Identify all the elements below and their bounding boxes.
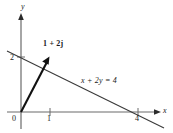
x-axis-label: x (163, 107, 167, 115)
diagram-canvas (0, 0, 173, 133)
y-axis-arrowhead-icon (18, 13, 24, 20)
vector-annotation-label: 1 + 2j (43, 40, 63, 48)
origin-label: 0 (12, 115, 16, 123)
x-tick-label-1: 1 (47, 115, 51, 123)
x-axis-arrowhead-icon (154, 109, 161, 115)
x-tick-label-4: 4 (135, 115, 139, 123)
line-equation-label: x + 2y = 4 (81, 77, 117, 85)
argand-diagram-figure: y x 0 1 4 2 1 + 2j x + 2y = 4 (0, 0, 173, 133)
y-tick-label-2: 2 (10, 54, 14, 62)
y-axis-label: y (21, 3, 25, 11)
equation-line (7, 51, 164, 128)
vector-shaft (21, 61, 48, 112)
